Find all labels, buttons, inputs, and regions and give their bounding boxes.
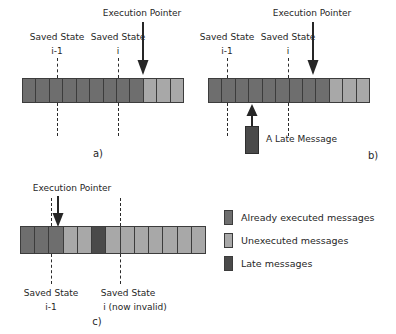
- message-cell: [343, 79, 356, 102]
- panel-c-saved-state-1-label: Saved State: [24, 288, 79, 299]
- panel-c-message-bar: [20, 226, 206, 254]
- panel-c-saved-state-1-index: i-1: [45, 302, 56, 313]
- panel-a-saved-state-1-line-top: [57, 58, 58, 78]
- panel-b-saved-state-1-line-top: [227, 58, 228, 78]
- panel-c-saved-state-1-line-bottom: [51, 254, 52, 284]
- panel-a-saved-state-2-index: i: [117, 46, 120, 57]
- message-cell: [316, 79, 329, 102]
- message-cell: [35, 227, 49, 253]
- panel-b-execution-pointer-label: Execution Pointer: [273, 8, 352, 19]
- message-cell: [106, 227, 120, 253]
- message-cell: [64, 227, 78, 253]
- figure-canvas: Execution Pointer Saved State i-1 Saved …: [0, 0, 396, 334]
- message-cell: [178, 227, 192, 253]
- legend-item-late: Late messages: [224, 256, 375, 271]
- message-cell: [78, 227, 92, 253]
- message-cell: [171, 79, 183, 102]
- panel-a-saved-state-1-index: i-1: [51, 46, 62, 57]
- panel-b-saved-state-2-index: i: [287, 46, 290, 57]
- message-cell: [104, 79, 117, 102]
- panel-a-saved-state-1-line-bottom: [57, 103, 58, 136]
- message-cell: [117, 79, 130, 102]
- panel-b-saved-state-1-index: i-1: [221, 46, 232, 57]
- panel-a-saved-state-1-label: Saved State: [30, 32, 85, 43]
- panel-c-saved-state-2-line-bottom: [120, 254, 121, 284]
- message-cell: [144, 79, 157, 102]
- message-cell: [77, 79, 90, 102]
- panel-c-execution-pointer-arrow: [51, 196, 65, 228]
- panel-c-saved-state-2-label: Saved State: [101, 288, 156, 299]
- panel-b-saved-state-2-line-bottom: [288, 103, 289, 136]
- panel-c-saved-state-2-index: i (now invalid): [103, 302, 167, 313]
- panel-c-tag: c): [92, 316, 101, 327]
- message-cell: [357, 79, 369, 102]
- message-cell: [290, 79, 303, 102]
- message-cell: [50, 79, 63, 102]
- message-cell: [36, 79, 49, 102]
- message-cell: [330, 79, 343, 102]
- panel-c-saved-state-1-line-top: [51, 198, 52, 226]
- legend-swatch-executed: [224, 210, 233, 225]
- message-cell: [303, 79, 316, 102]
- panel-b-late-message-label: A Late Message: [266, 134, 337, 145]
- legend-item-executed: Already executed messages: [224, 210, 375, 225]
- panel-c-saved-state-2-line-top: [120, 198, 121, 226]
- message-cell: [192, 227, 205, 253]
- panel-a-tag: a): [93, 148, 103, 159]
- panel-b-late-message-block: [245, 126, 259, 154]
- panel-b-message-bar: [208, 78, 370, 103]
- message-cell: [276, 79, 289, 102]
- panel-b-saved-state-1-label: Saved State: [200, 32, 255, 43]
- message-cell: [121, 227, 135, 253]
- legend-swatch-late: [224, 256, 233, 271]
- message-cell: [163, 227, 177, 253]
- message-cell: [21, 227, 35, 253]
- message-cell: [135, 227, 149, 253]
- panel-b-late-message-arrow: [245, 104, 259, 128]
- legend-label-late: Late messages: [241, 258, 312, 269]
- message-cell: [157, 79, 170, 102]
- message-cell: [236, 79, 249, 102]
- message-cell: [263, 79, 276, 102]
- legend: Already executed messages Unexecuted mes…: [224, 210, 375, 271]
- panel-b-execution-pointer-arrow: [306, 22, 320, 76]
- message-cell: [149, 227, 163, 253]
- panel-a-saved-state-2-line-bottom: [118, 103, 119, 136]
- panel-a-saved-state-2-line-top: [118, 58, 119, 78]
- legend-label-executed: Already executed messages: [241, 212, 375, 223]
- panel-a-execution-pointer-label: Execution Pointer: [103, 8, 182, 19]
- panel-a-execution-pointer-arrow: [136, 22, 150, 76]
- message-cell: [209, 79, 222, 102]
- message-cell: [130, 79, 143, 102]
- message-cell: [222, 79, 235, 102]
- message-cell: [63, 79, 76, 102]
- legend-label-unexecuted: Unexecuted messages: [241, 235, 348, 246]
- legend-swatch-unexecuted: [224, 233, 233, 248]
- message-cell: [23, 79, 36, 102]
- message-cell: [249, 79, 262, 102]
- panel-c-execution-pointer-label: Execution Pointer: [33, 183, 112, 194]
- panel-b-tag: b): [368, 150, 378, 161]
- message-cell: [92, 227, 106, 253]
- panel-b-saved-state-1-line-bottom: [227, 103, 228, 136]
- message-cell: [49, 227, 63, 253]
- legend-item-unexecuted: Unexecuted messages: [224, 233, 375, 248]
- message-cell: [90, 79, 103, 102]
- panel-b-saved-state-2-line-top: [288, 58, 289, 78]
- panel-a-message-bar: [22, 78, 184, 103]
